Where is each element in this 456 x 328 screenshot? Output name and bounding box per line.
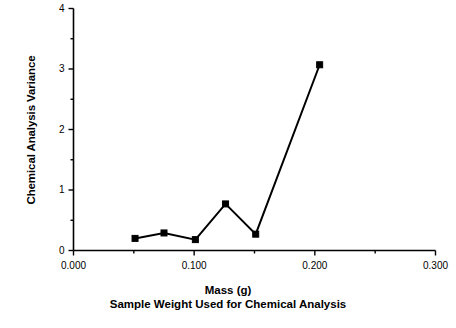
y-tick-label: 3 (49, 64, 65, 74)
data-series-line (135, 65, 320, 240)
x-tick-label: 0.100 (164, 261, 224, 271)
x-axis-subtitle: Sample Weight Used for Chemical Analysis (0, 297, 456, 311)
y-tick-label: 1 (49, 185, 65, 195)
y-tick-label: 0 (49, 246, 65, 256)
y-axis-title: Chemical Analysis Variance (18, 5, 44, 255)
x-tick-label: 0.200 (285, 261, 345, 271)
x-axis-title: Mass (g) (0, 283, 456, 297)
y-tick-label: 4 (49, 4, 65, 14)
tick-marks (69, 9, 436, 256)
y-tick-label: 2 (49, 125, 65, 135)
x-tick-label: 0.300 (406, 261, 456, 271)
data-series-markers (132, 62, 323, 243)
x-axis-caption-block: Mass (g) Sample Weight Used for Chemical… (0, 283, 456, 311)
axis-lines (74, 9, 436, 251)
chart-figure: Chemical Analysis Variance 01234 0.0000.… (0, 0, 456, 328)
plot-area (0, 0, 456, 328)
x-tick-label: 0.000 (44, 261, 104, 271)
